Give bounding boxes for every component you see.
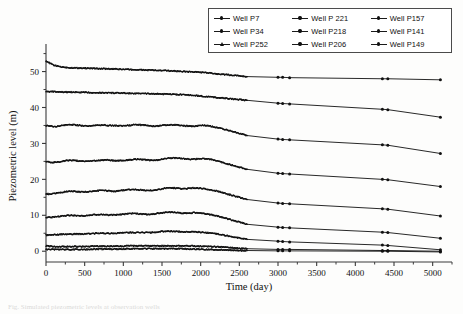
legend-item[interactable]: Well P218 <box>292 25 368 38</box>
legend-item[interactable]: Well P141 <box>371 25 447 38</box>
x-tick-label: 2500 <box>230 268 249 278</box>
legend-label: Well P218 <box>311 27 346 36</box>
legend-item[interactable]: Well P7 <box>214 12 290 25</box>
y-tick-label: 30 <box>30 139 40 149</box>
dot-marker-icon <box>371 27 387 36</box>
dot-marker-icon <box>371 40 387 49</box>
chart-figure: 0102030405005001000150020002500300035004… <box>0 0 463 314</box>
legend-label: Well P 221 <box>311 14 348 23</box>
legend-label: Well P7 <box>233 14 259 23</box>
x-tick-label: 0 <box>44 268 49 278</box>
y-tick-label: 0 <box>35 246 40 256</box>
legend-item[interactable]: Well P 221 <box>292 12 368 25</box>
x-tick-label: 500 <box>78 268 92 278</box>
legend-label: Well P141 <box>390 27 425 36</box>
x-tick-label: 1500 <box>153 268 172 278</box>
series-layer <box>45 60 442 253</box>
dot-marker-icon <box>214 27 230 36</box>
series-line <box>45 187 442 218</box>
series-line <box>45 90 442 118</box>
legend-label: Well P157 <box>390 14 425 23</box>
x-tick-label: 5000 <box>424 268 443 278</box>
series-line <box>45 157 442 188</box>
legend-label: Well P34 <box>233 27 264 36</box>
legend-item[interactable]: Well P157 <box>371 12 447 25</box>
dot-marker-icon <box>292 14 308 23</box>
legend-label: Well P206 <box>311 40 346 49</box>
y-tick-label: 10 <box>30 210 40 220</box>
x-tick-label: 4500 <box>385 268 404 278</box>
dot-marker-icon <box>371 14 387 23</box>
x-tick-label: 3000 <box>269 268 288 278</box>
dot-marker-icon <box>292 27 308 36</box>
axis-labels: 0102030405005001000150020002500300035004… <box>7 67 442 293</box>
legend-label: Well P149 <box>390 40 425 49</box>
x-tick-label: 1000 <box>114 268 133 278</box>
figure-caption: Fig. Simulated piezometric levels at obs… <box>8 303 428 312</box>
x-tick-label: 3500 <box>308 268 327 278</box>
legend-item[interactable]: Well P252 <box>214 38 290 51</box>
series-line <box>45 211 442 240</box>
series-line <box>45 60 442 81</box>
y-tick-label: 40 <box>30 103 40 113</box>
triangle-marker-icon <box>214 40 230 49</box>
legend: Well P7Well P 221Well P157Well P34Well P… <box>208 8 452 53</box>
legend-item[interactable]: Well P34 <box>214 25 290 38</box>
legend-label: Well P252 <box>233 40 268 49</box>
dot-marker-icon <box>214 14 230 23</box>
x-axis-title: Time (day) <box>226 281 273 293</box>
series-line <box>45 124 442 155</box>
legend-item[interactable]: Well P149 <box>371 38 447 51</box>
y-tick-label: 50 <box>30 67 40 77</box>
y-axis-title: Piezometric level (m) <box>7 110 19 201</box>
y-tick-label: 20 <box>30 175 40 185</box>
x-tick-label: 2000 <box>192 268 211 278</box>
legend-item[interactable]: Well P206 <box>292 38 368 51</box>
legend-entries: Well P7Well P 221Well P157Well P34Well P… <box>214 12 447 51</box>
x-tick-label: 4000 <box>346 268 365 278</box>
dot-marker-icon <box>292 40 308 49</box>
